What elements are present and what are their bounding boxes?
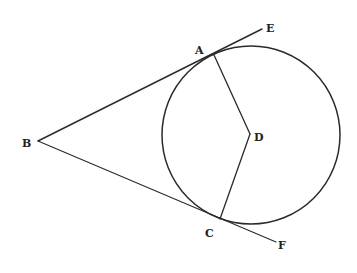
point-label-D: D xyxy=(254,131,264,144)
point-label-C: C xyxy=(205,227,214,240)
tangent-line-BAE xyxy=(38,29,262,141)
radius-DC xyxy=(220,134,250,219)
tangent-line-BCF xyxy=(38,141,276,242)
point-label-E: E xyxy=(266,22,274,35)
diagram-canvas: A B C D E F xyxy=(0,0,357,273)
circle xyxy=(162,46,340,224)
point-label-F: F xyxy=(278,239,286,252)
geometry-figure: A B C D E F xyxy=(0,0,357,273)
radius-DA xyxy=(214,55,250,134)
point-label-A: A xyxy=(194,44,204,57)
point-label-B: B xyxy=(22,137,31,150)
